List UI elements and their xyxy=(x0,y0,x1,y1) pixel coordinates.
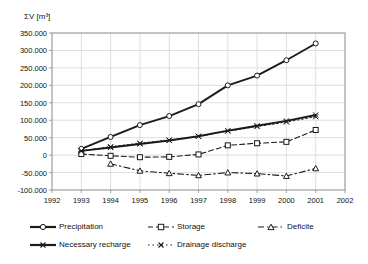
legend-label-precipitation: Precipitation xyxy=(59,222,103,231)
legend-item-storage[interactable]: Storage xyxy=(148,218,205,235)
legend-item-drainage-discharge[interactable]: Drainage discharge xyxy=(148,236,246,253)
legend-swatch-drainage-discharge xyxy=(148,240,174,250)
chart-container: ΣV [m³] 350.000300.000250.000200.000150.… xyxy=(0,0,368,264)
legend-swatch-deficite xyxy=(258,222,284,232)
legend-item-deficite[interactable]: Deficite xyxy=(258,218,314,235)
legend-label-drainage-discharge: Drainage discharge xyxy=(177,240,246,249)
legend-label-storage: Storage xyxy=(177,222,205,231)
plot-area xyxy=(0,0,368,216)
legend-label-necessary-recharge: Necessary recharge xyxy=(59,240,131,249)
legend-item-necessary-recharge[interactable]: Necessary recharge xyxy=(30,236,131,253)
legend-swatch-storage xyxy=(148,222,174,232)
legend-swatch-precipitation xyxy=(30,222,56,232)
series-deficite xyxy=(108,161,319,179)
legend-item-precipitation[interactable]: Precipitation xyxy=(30,218,103,235)
chart-legend: Precipitation Storage Deficite xyxy=(0,216,368,264)
legend-swatch-necessary-recharge xyxy=(30,240,56,250)
legend-label-deficite: Deficite xyxy=(287,222,314,231)
